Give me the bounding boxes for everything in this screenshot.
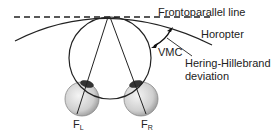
horopter-label: Horopter — [201, 28, 244, 40]
vmc-label: VMC — [158, 46, 182, 58]
deviation-arrow — [154, 29, 171, 46]
horopter-curve — [15, 18, 212, 45]
vieth-muller-circle — [69, 17, 151, 99]
hh-label-line1: Hering-Hillebrand — [185, 57, 271, 69]
fovea-right-label: FR — [141, 118, 153, 134]
frontoparallel-label: Frontoparallel line — [158, 6, 245, 18]
binocular-geometry-diagram — [0, 0, 274, 138]
hh-label-line2: deviation — [185, 70, 229, 82]
fovea-left-label: FL — [73, 118, 84, 134]
